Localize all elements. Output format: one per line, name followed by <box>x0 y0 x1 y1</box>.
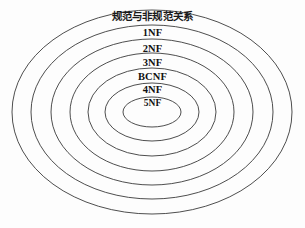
normalization-diagram: 规范与非规范关系 1NF 2NF 3NF BCNF 4NF 5NF <box>0 0 305 228</box>
ring-label-4nf: 4NF <box>0 85 305 96</box>
ring-label-bcnf: BCNF <box>0 72 305 83</box>
ring-label-1nf: 1NF <box>0 28 305 39</box>
ring-label-5nf: 5NF <box>0 99 305 109</box>
ring-label-2nf: 2NF <box>0 44 305 55</box>
ring-label-layer: 规范与非规范关系 1NF 2NF 3NF BCNF 4NF 5NF <box>0 0 305 228</box>
diagram-title: 规范与非规范关系 <box>0 11 305 22</box>
ring-label-3nf: 3NF <box>0 58 305 69</box>
